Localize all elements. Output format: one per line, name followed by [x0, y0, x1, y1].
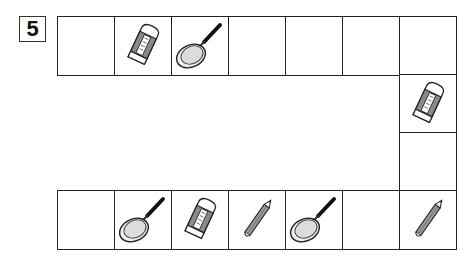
board-cell-bottom-4	[228, 190, 286, 250]
board-cell-top-1	[57, 16, 115, 76]
board-cell-top-5	[285, 16, 343, 76]
frying-pan-icon	[175, 21, 225, 71]
frying-pan-icon	[118, 195, 168, 245]
eraser-icon	[403, 79, 453, 129]
board-cell-right-1	[399, 74, 457, 134]
board-cell-right-2	[399, 132, 457, 192]
eraser-icon	[175, 195, 225, 245]
board-cell-bottom-5	[285, 190, 343, 250]
board-cell-bottom-6	[342, 190, 400, 250]
board-cell-top-2	[114, 16, 172, 76]
board-cell-bottom-3	[171, 190, 229, 250]
pencil-icon	[403, 195, 453, 245]
board-cell-top-7	[399, 16, 457, 76]
board-cell-bottom-7	[399, 190, 457, 250]
board-cell-top-4	[228, 16, 286, 76]
board-cell-top-6	[342, 16, 400, 76]
board-cell-bottom-1	[57, 190, 115, 250]
board-cell-bottom-2	[114, 190, 172, 250]
board-cell-top-3	[171, 16, 229, 76]
frying-pan-icon	[289, 195, 339, 245]
eraser-icon	[118, 21, 168, 71]
puzzle-number-label: 5	[19, 16, 46, 42]
pencil-icon	[232, 195, 282, 245]
